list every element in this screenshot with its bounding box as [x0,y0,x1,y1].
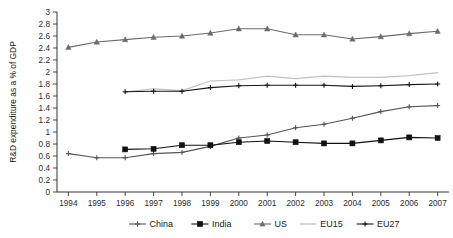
data-point-marker [293,83,298,88]
series-eu27 [123,82,440,95]
y-axis-title: R&D expenditure as a % of GDP [8,41,18,163]
y-tick-label: 0.4 [39,164,51,173]
data-point-marker [350,116,355,121]
y-tick-label: 1.2 [39,116,51,125]
data-point-marker [378,109,383,114]
data-point-marker [236,83,241,88]
legend-item-china[interactable]: China [129,219,173,229]
legend-label: US [275,219,288,229]
x-tick-label: 2003 [315,199,334,208]
data-point-marker [236,140,241,145]
data-point-marker [208,143,213,148]
series-line [125,73,437,92]
data-point-marker [265,83,270,88]
legend-label: EU15 [320,219,343,229]
data-point-marker [265,139,270,144]
series-eu15 [125,73,437,92]
y-tick-label: 1.4 [39,104,51,113]
data-point-marker [322,122,327,127]
y-tick-label: 0 [45,188,50,197]
data-point-marker [350,84,355,89]
data-point-marker [123,155,128,160]
y-tick-label: 0.2 [39,176,51,185]
chart-legend: ChinaIndiaUSEU15EU27 [129,219,400,229]
x-tick-label: 2004 [343,199,362,208]
data-point-marker [151,151,156,156]
y-axis-ticks: 00.20.40.60.811.21.41.61.822.22.42.62.83 [39,8,57,197]
y-tick-label: 2 [45,68,50,77]
x-tick-label: 1996 [116,199,135,208]
legend-item-india[interactable]: India [192,219,232,229]
legend-marker-china [135,221,140,226]
y-tick-label: 2.2 [39,56,51,65]
data-point-marker [293,140,298,145]
data-point-marker [94,155,99,160]
legend-item-us[interactable]: US [254,219,287,229]
x-tick-label: 1999 [201,199,220,208]
chart-container: 00.20.40.60.811.21.41.61.822.22.42.62.83… [0,0,453,238]
data-point-marker [208,85,213,90]
legend-marker-india [197,221,202,226]
data-point-marker [378,138,383,143]
x-tick-label: 2000 [230,199,249,208]
x-tick-label: 2001 [258,199,277,208]
data-point-marker [322,141,327,146]
legend-item-eu27[interactable]: EU27 [357,219,400,229]
x-tick-label: 1998 [173,199,192,208]
y-tick-label: 0.8 [39,140,51,149]
data-point-marker [179,143,184,148]
x-tick-label: 2006 [400,199,419,208]
x-tick-label: 2005 [372,199,391,208]
line-chart: 00.20.40.60.811.21.41.61.822.22.42.62.83… [0,0,453,238]
data-point-marker [435,82,440,87]
series-india [123,135,440,152]
x-tick-label: 2007 [429,199,448,208]
legend-item-eu15[interactable]: EU15 [300,219,343,229]
legend-label: China [150,219,174,229]
data-point-marker [378,83,383,88]
y-tick-label: 2.6 [39,32,51,41]
y-tick-label: 2.8 [39,20,51,29]
data-point-marker [435,136,440,141]
data-point-marker [179,150,184,155]
y-tick-label: 2.4 [39,44,51,53]
data-point-marker [322,83,327,88]
data-point-marker [293,125,298,130]
x-tick-label: 1995 [88,199,107,208]
series-line [125,137,437,149]
x-tick-label: 2002 [286,199,305,208]
data-point-marker [435,103,440,108]
y-tick-label: 0.6 [39,152,51,161]
x-axis-ticks: 1994199519961997199819992000200120022003… [59,192,447,208]
x-tick-label: 1994 [59,199,78,208]
data-point-marker [407,82,412,87]
y-tick-label: 1 [45,128,50,137]
y-tick-label: 1.8 [39,80,51,89]
data-point-marker [123,89,128,94]
legend-label: India [212,219,232,229]
data-point-marker [407,135,412,140]
data-point-marker [66,151,71,156]
data-point-marker [265,133,270,138]
x-tick-label: 1997 [144,199,163,208]
legend-label: EU27 [377,219,400,229]
series-line [125,84,437,92]
data-point-marker [350,141,355,146]
legend-marker-eu27 [363,221,368,226]
data-point-marker [407,104,412,109]
data-point-marker [123,147,128,152]
y-tick-label: 1.6 [39,92,51,101]
y-tick-label: 3 [45,8,50,17]
series-us [66,26,441,50]
series-china [66,103,440,160]
data-point-marker [151,146,156,151]
